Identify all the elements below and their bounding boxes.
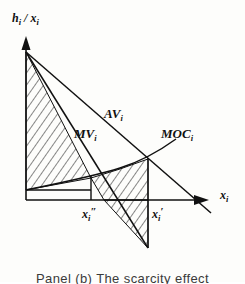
tick-label-x-double-prime-mark: ″	[90, 205, 96, 217]
y-axis-label-denominator-sub: i	[36, 17, 39, 27]
curve-label-av-base: AV	[103, 106, 122, 121]
x-axis-label-base: x	[219, 188, 226, 202]
curve-label-moc-sub: i	[191, 133, 194, 143]
x-axis-label: xi	[219, 188, 229, 204]
curve-label-mv-base: MV	[73, 126, 96, 141]
tick-label-x-single-prime-mark: ′	[160, 205, 163, 217]
tick-label-x-double-prime-base: x	[81, 207, 88, 221]
x-axis-label-sub: i	[226, 194, 229, 204]
curve-label-moc: MOCi	[160, 126, 194, 143]
tick-label-x-double-prime: xi″	[81, 205, 96, 223]
curve-label-mv: MVi	[73, 126, 97, 143]
curve-label-av-sub: i	[120, 113, 123, 123]
shaded-region-lower-deficit	[104, 200, 148, 248]
y-axis-label-denominator: x	[29, 11, 36, 25]
curve-label-moc-base: MOC	[160, 126, 191, 141]
y-axis-label: hi / xi	[12, 11, 39, 27]
shaded-region-middle-surplus	[91, 159, 148, 200]
curve-label-mv-sub: i	[94, 133, 97, 143]
figure-caption: Panel (b) The scarcity effect	[0, 271, 245, 284]
shaded-region-left-surplus	[26, 52, 91, 190]
tick-label-x-single-prime-base: x	[151, 207, 158, 221]
curve-label-av: AVi	[103, 106, 123, 123]
y-axis-label-separator: /	[21, 11, 30, 25]
tick-label-x-single-prime: xi′	[151, 205, 163, 223]
